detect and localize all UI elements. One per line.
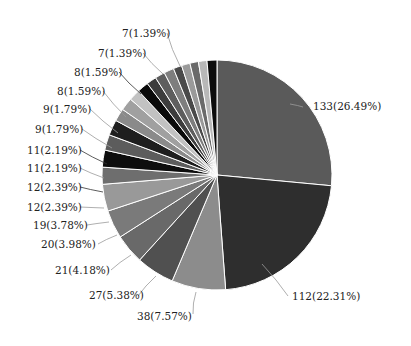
leader-line [103,91,126,117]
slice-label: 20(3.98%) [41,238,96,250]
slice-label: 27(5.38%) [89,289,144,301]
slice-label: 11(2.19%) [27,162,82,174]
slice-label: 21(4.18%) [55,264,110,276]
slice-label: 7(1.39%) [122,27,170,39]
slice-label: 9(1.79%) [35,123,83,135]
slice-label: 8(1.59%) [57,85,105,97]
leader-line [119,72,141,94]
leader-line [80,187,103,192]
slice-label: 8(1.59%) [74,66,122,78]
slice-label: 112(22.31%) [292,290,360,302]
slice-label: 19(3.78%) [33,219,88,231]
leader-line [90,109,118,133]
pie-slice [217,175,331,290]
slice-label: 12(2.39%) [27,181,82,193]
slice-label: 7(1.39%) [98,47,146,59]
slice-label: 9(1.79%) [43,103,91,115]
pie-chart: 133(26.49%)112(22.31%)38(7.57%)27(5.38%)… [0,0,411,346]
leader-line [80,168,104,178]
pie-slices [102,60,332,290]
leader-line [80,207,104,208]
slice-label: 133(26.49%) [313,100,381,112]
leader-line [98,235,117,244]
slice-label: 12(2.39%) [27,201,82,213]
leader-line [87,222,109,225]
leader-line [193,292,196,314]
pie-slice [217,60,332,186]
slice-label: 11(2.19%) [27,144,82,156]
leader-line [111,255,131,270]
slice-label: 38(7.57%) [137,310,192,322]
